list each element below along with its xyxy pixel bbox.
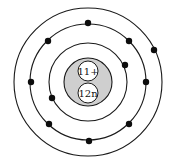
proton-label: 11+ — [77, 66, 98, 77]
neutron-label: 12n — [78, 88, 98, 99]
electron-dot — [46, 121, 52, 127]
nucleus: 11+ 12n — [64, 58, 112, 106]
electron-dot — [45, 38, 51, 44]
electron-dot — [126, 121, 132, 127]
electron-dot — [85, 20, 91, 26]
electron-dot — [28, 79, 34, 85]
sodium-atom-diagram: 11+ 12n — [0, 0, 170, 167]
electron-dot — [122, 62, 128, 68]
electron-dot — [151, 47, 157, 53]
electron-dot — [86, 138, 92, 144]
electron-dot — [143, 79, 149, 85]
electron-dot — [126, 38, 132, 44]
electron-dot — [49, 95, 55, 101]
